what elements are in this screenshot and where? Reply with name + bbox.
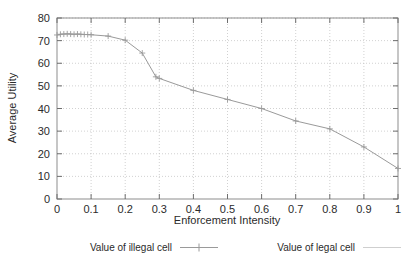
chart-svg: 01020304050607080 00.10.20.30.40.50.60.7… [0, 0, 417, 265]
x-tick-label: 0.8 [322, 203, 337, 215]
x-axis-title: Enforcement Intensity [174, 214, 281, 226]
x-tick-label: 0.1 [83, 203, 98, 215]
y-axis-tick-labels: 01020304050607080 [38, 12, 50, 205]
y-tick-label: 20 [38, 148, 50, 160]
y-tick-label: 30 [38, 125, 50, 137]
x-tick-label: 0.7 [288, 203, 303, 215]
x-tick-label: 0.2 [118, 203, 133, 215]
legend-label-legal-cell: Value of legal cell [277, 242, 355, 253]
y-axis-title: Average Utility [6, 72, 18, 143]
y-tick-label: 80 [38, 12, 50, 24]
x-tick-label: 0.9 [356, 203, 371, 215]
y-tick-label: 50 [38, 80, 50, 92]
x-tick-label: 0 [54, 203, 60, 215]
y-tick-label: 60 [38, 57, 50, 69]
x-tick-label: 1 [395, 203, 401, 215]
legend-label-illegal-cell: Value of illegal cell [90, 242, 172, 253]
y-tick-label: 10 [38, 170, 50, 182]
y-tick-label: 70 [38, 35, 50, 47]
x-tick-label: 0.3 [152, 203, 167, 215]
y-tick-label: 0 [44, 193, 50, 205]
chart-figure: 01020304050607080 00.10.20.30.40.50.60.7… [0, 0, 417, 265]
y-tick-label: 40 [38, 103, 50, 115]
